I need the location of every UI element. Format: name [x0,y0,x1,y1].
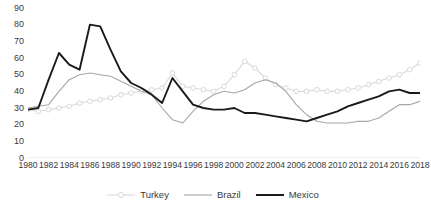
series-line [28,73,420,123]
legend-item-mexico[interactable]: Mexico [255,190,319,200]
data-point-marker [315,87,320,92]
x-axis-tick-label: 2002 [244,160,266,170]
data-point-marker [366,82,371,87]
legend-swatch-brazil [183,190,213,200]
y-axis-tick-label: 80 [14,20,24,29]
data-point-marker [129,91,134,96]
series-canvas [28,8,420,158]
data-point-marker [304,89,309,94]
x-axis-tick-label: 2008 [306,160,328,170]
series-brazil [28,73,420,123]
data-point-marker [387,76,392,81]
x-axis: 1980198219841986198819901992199419961998… [0,160,425,176]
x-axis-tick-label: 1980 [17,160,39,170]
data-point-marker [201,87,206,92]
x-axis-tick-label: 2010 [326,160,348,170]
x-axis-tick-label: 1998 [203,160,225,170]
y-axis-tick-label: 30 [14,104,24,113]
plot-area [28,8,420,158]
data-point-marker [335,89,340,94]
data-point-marker [119,92,124,97]
data-point-marker [222,84,227,89]
x-axis-tick-label: 1996 [182,160,204,170]
data-point-marker [191,86,196,91]
data-point-marker [345,87,350,92]
x-axis-tick-label: 1982 [38,160,60,170]
legend-item-brazil[interactable]: Brazil [183,190,241,200]
x-axis-tick-label: 1984 [58,160,80,170]
y-axis-tick-label: 60 [14,54,24,63]
data-point-marker [98,97,103,102]
legend-label: Brazil [217,190,241,200]
legend-item-turkey[interactable]: Turkey [106,190,169,200]
y-axis: 0102030405060708090 [0,0,26,168]
data-point-marker [325,89,330,94]
x-axis-tick-label: 2018 [409,160,431,170]
y-axis-tick-label: 50 [14,70,24,79]
data-point-marker [418,61,420,66]
data-point-marker [160,86,165,91]
x-axis-tick-label: 1986 [79,160,101,170]
y-axis-tick-label: 90 [14,4,24,13]
x-axis-tick-label: 2004 [265,160,287,170]
data-point-marker [108,96,113,101]
x-axis-tick-label: 2000 [223,160,245,170]
data-point-marker [67,104,72,109]
data-point-marker [397,72,402,77]
data-point-marker [232,72,237,77]
data-point-marker [211,89,216,94]
x-axis-tick-label: 1990 [120,160,142,170]
data-point-marker [170,71,175,76]
data-point-marker [253,66,258,71]
x-axis-tick-label: 1992 [141,160,163,170]
x-axis-tick-label: 2016 [388,160,410,170]
legend-swatch-turkey [106,190,136,200]
chart-legend: TurkeyBrazilMexico [0,186,425,204]
x-axis-tick-label: 2014 [368,160,390,170]
data-point-marker [376,79,381,84]
y-axis-tick-label: 40 [14,87,24,96]
data-point-marker [88,99,93,104]
x-axis-tick-label: 1994 [161,160,183,170]
legend-label: Turkey [140,190,169,200]
data-point-marker [77,101,82,106]
data-point-marker [149,87,154,92]
x-axis-tick-label: 1988 [100,160,122,170]
y-axis-tick-label: 70 [14,37,24,46]
legend-label: Mexico [289,190,319,200]
data-point-marker [242,59,247,64]
data-point-marker [356,86,361,91]
series-turkey [28,59,420,114]
x-axis-tick-label: 2012 [347,160,369,170]
data-point-marker [294,89,299,94]
x-axis-tick-label: 2006 [285,160,307,170]
data-point-marker [57,106,62,111]
data-point-marker [407,67,412,72]
legend-swatch-mexico [255,190,285,200]
y-axis-tick-label: 20 [14,120,24,129]
data-point-marker [36,109,41,114]
y-axis-tick-label: 10 [14,137,24,146]
data-point-marker [46,107,51,112]
